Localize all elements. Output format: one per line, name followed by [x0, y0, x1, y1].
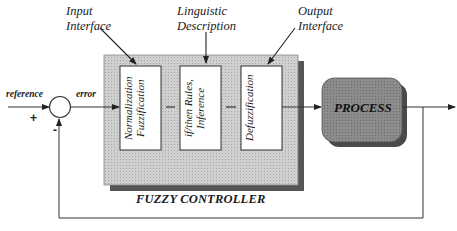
inference-text: if/then Rules, Inference [182, 68, 219, 148]
normalization-line1: Normalization [122, 76, 134, 140]
linguistic-description-line2: Description [177, 19, 236, 34]
normalization-text: Normalization Fuzzification [122, 68, 159, 148]
minus-sign: - [53, 123, 57, 137]
process-label: PROCESS [334, 100, 392, 116]
inference-line2: Inference [194, 87, 206, 128]
output-interface-line1: Output [298, 4, 343, 19]
linguistic-description-label: Linguistic Description [177, 4, 236, 34]
defuzzification-line1: Defuzzification [243, 75, 255, 142]
summing-junction [50, 97, 71, 118]
input-interface-label: Input Interface [66, 4, 111, 34]
input-interface-line1: Input [66, 4, 111, 19]
fuzzy-controller-title: FUZZY CONTROLLER [136, 192, 265, 207]
output-interface-line2: Interface [298, 19, 343, 34]
reference-label: reference [6, 87, 43, 102]
inference-line1: if/then Rules, [182, 79, 194, 137]
error-label: error [76, 87, 96, 102]
output-interface-label: Output Interface [298, 4, 343, 34]
normalization-line2: Fuzzification [134, 79, 146, 136]
plus-sign: + [30, 111, 37, 125]
linguistic-description-line1: Linguistic [177, 4, 236, 19]
input-interface-line2: Interface [66, 19, 111, 34]
defuzzification-text: Defuzzification [243, 68, 280, 148]
